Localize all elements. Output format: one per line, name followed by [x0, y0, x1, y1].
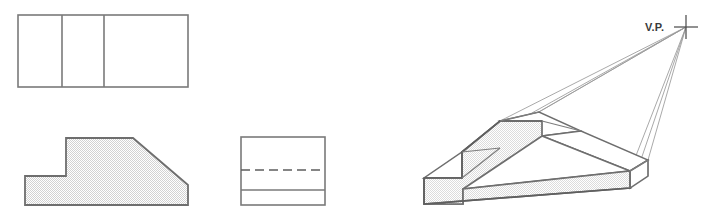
- side-view: [241, 137, 325, 205]
- convergence-line-5: [630, 27, 686, 171]
- perspective-view: [424, 112, 648, 204]
- side-view-outline: [241, 137, 325, 205]
- front-view: [25, 138, 188, 205]
- technical-drawing-figure: V.P.: [0, 0, 717, 224]
- vanishing-point-cross: [674, 15, 698, 39]
- top-view-outline: [18, 15, 188, 87]
- convergence-line-4: [539, 27, 686, 112]
- vanishing-point-label: V.P.: [645, 21, 664, 33]
- convergence-line-6: [648, 27, 686, 160]
- top-view: [18, 15, 188, 87]
- front-view-outline: [25, 138, 188, 205]
- convergence-line-3: [500, 27, 686, 121]
- drawing-canvas: V.P.: [0, 0, 717, 224]
